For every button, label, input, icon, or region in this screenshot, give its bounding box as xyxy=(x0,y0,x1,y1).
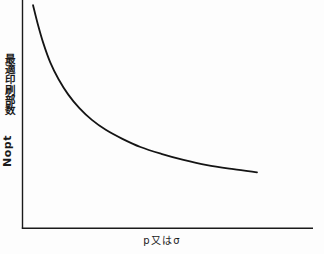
data-curve-nopt xyxy=(33,5,257,172)
y-axis-label: 最適印刷部数 Nopt xyxy=(1,54,19,141)
y-axis-label-latin: Nopt xyxy=(1,130,13,172)
y-axis-label-japanese: 最適印刷部数 xyxy=(4,54,16,115)
x-axis-label: p又はσ xyxy=(0,232,324,247)
plot-area xyxy=(0,0,324,254)
figure-canvas: 最適印刷部数 Nopt p又はσ xyxy=(0,0,324,254)
